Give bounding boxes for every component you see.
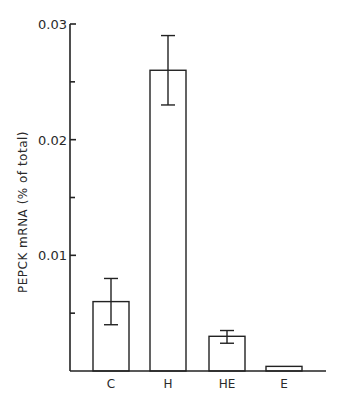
x-tick-label: E <box>280 377 288 391</box>
bar-h <box>150 36 186 371</box>
y-tick-label: 0.01 <box>38 248 67 263</box>
y-axis-label: PEPCK mRNA (% of total) <box>16 131 30 293</box>
bar-c <box>93 278 129 371</box>
x-tick-label: HE <box>219 377 236 391</box>
y-tick-label: 0.02 <box>38 133 67 148</box>
bar-rect <box>150 70 186 371</box>
x-tick-label: H <box>163 377 172 391</box>
bars <box>93 36 302 371</box>
x-axis: CHHEE <box>70 371 326 391</box>
bar-chart: 0.010.020.03 CHHEE PEPCK mRNA (% of tota… <box>0 0 343 408</box>
y-tick-label: 0.03 <box>38 17 67 32</box>
x-tick-label: C <box>107 377 115 391</box>
bar-he <box>209 331 245 371</box>
y-axis: 0.010.020.03 <box>38 17 76 371</box>
